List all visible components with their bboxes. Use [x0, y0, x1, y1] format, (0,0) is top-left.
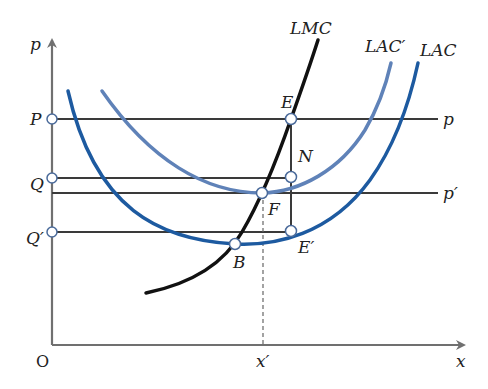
x-prime-tick-label: x′	[256, 351, 270, 371]
point-P-axis	[47, 114, 57, 124]
cost-curves-diagram: p x O x′ P Q Q′ p p′ LMC LAC′ LAC E N F …	[0, 0, 488, 389]
origin-label: O	[36, 352, 49, 371]
point-Q-prime-axis	[47, 227, 57, 237]
label-E-prime: E′	[297, 237, 314, 257]
label-Q: Q	[30, 174, 44, 194]
x-axis-label: x	[456, 351, 466, 371]
lac-prime-curve	[102, 63, 391, 193]
label-p-prime-line: p′	[443, 183, 458, 203]
label-Q-prime: Q′	[26, 228, 44, 248]
lac-curve	[68, 63, 418, 244]
point-E	[286, 114, 297, 125]
point-Q-axis	[47, 173, 57, 183]
label-B: B	[232, 252, 246, 272]
lmc-curve	[146, 40, 318, 293]
label-lmc: LMC	[289, 18, 332, 38]
label-P: P	[29, 109, 42, 129]
point-E-prime	[286, 226, 297, 237]
label-E: E	[280, 92, 294, 112]
point-B	[230, 239, 241, 250]
label-lac-prime: LAC′	[364, 36, 406, 56]
point-F	[257, 188, 268, 199]
label-F: F	[267, 199, 281, 219]
label-p-line: p	[443, 109, 454, 129]
label-lac: LAC	[419, 40, 457, 60]
y-axis-label: p	[30, 34, 41, 54]
label-N: N	[297, 146, 314, 166]
point-N	[286, 172, 297, 183]
